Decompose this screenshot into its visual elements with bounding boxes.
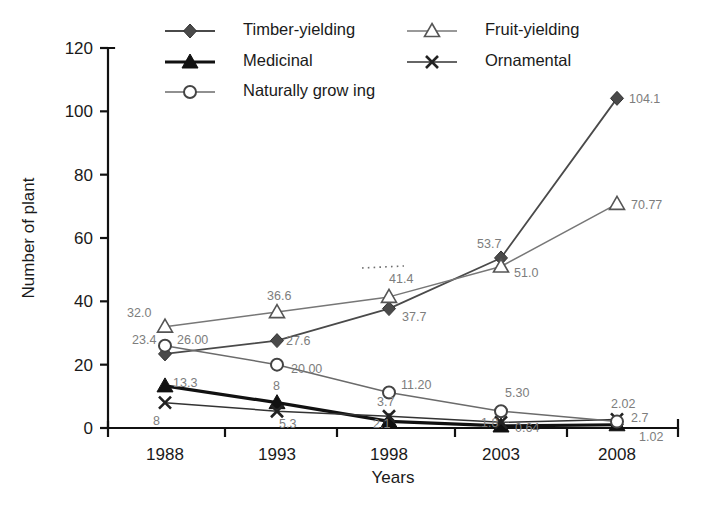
data-label: 32.0: [127, 306, 151, 320]
data-point-marker: [610, 196, 625, 209]
data-point-marker: [271, 359, 283, 371]
y-tick-label: 40: [74, 292, 93, 311]
data-label: 20.00: [291, 362, 322, 376]
data-label: 26.00: [177, 333, 208, 347]
data-label: 2.1: [373, 417, 390, 431]
y-tick-label: 0: [84, 419, 93, 438]
legend-label: Naturally grow ing: [243, 81, 375, 99]
data-label: 8: [153, 414, 160, 428]
legend-label: Medicinal: [243, 51, 313, 69]
data-label: 13.3: [173, 376, 197, 390]
y-tick-label: 100: [65, 102, 93, 121]
data-label: 41.4: [389, 272, 413, 286]
data-point-marker: [157, 378, 173, 392]
legend-item-fruit-yielding[interactable]: Fruit-yielding: [407, 20, 579, 38]
data-label: 53.7: [477, 237, 501, 251]
x-tick-label: 1993: [258, 445, 296, 464]
data-label: 104.1: [629, 92, 660, 106]
chart-canvas: 02040608010012019881993199820032008Years…: [0, 0, 705, 517]
y-axis: [108, 48, 114, 428]
y-tick-label: 20: [74, 356, 93, 375]
y-tick-label: 80: [74, 166, 93, 185]
data-point-marker: [184, 24, 197, 38]
series-group: [157, 91, 625, 432]
data-label: 51.0: [514, 266, 538, 280]
legend-item-ornamental[interactable]: Ornamental: [407, 51, 571, 69]
data-point-marker: [611, 416, 623, 428]
x-tick-label: 1988: [146, 445, 184, 464]
x-tick-label: 2003: [482, 445, 520, 464]
data-label: 8: [273, 379, 280, 393]
x-axis-title: Years: [372, 468, 415, 487]
data-label: 5.3: [279, 417, 296, 431]
x-tick-label: 2008: [598, 445, 636, 464]
legend-label: Fruit-yielding: [485, 20, 579, 38]
data-label: 2.7: [631, 411, 648, 425]
dotted-annotation: [362, 266, 404, 268]
data-label: 70.77: [631, 198, 662, 212]
data-label: 37.7: [402, 310, 426, 324]
legend-label: Ornamental: [485, 51, 571, 69]
data-point-marker: [271, 334, 284, 348]
data-label: 36.6: [267, 289, 291, 303]
data-label: 5.30: [505, 386, 529, 400]
data-point-marker: [425, 24, 440, 37]
legend: Timber-yieldingFruit-yieldingMedicinalOr…: [165, 20, 579, 99]
data-label: 11.20: [401, 378, 431, 392]
series-line: [165, 98, 617, 354]
legend-label: Timber-yielding: [243, 20, 355, 38]
data-label: 2.02: [611, 397, 635, 411]
data-label: 1.8: [481, 416, 498, 430]
data-point-marker: [159, 340, 171, 352]
data-label: 27.6: [286, 334, 310, 348]
x-tick-label: 1998: [370, 445, 408, 464]
data-label: 0.64: [515, 421, 539, 435]
legend-item-timber-yielding[interactable]: Timber-yielding: [165, 20, 355, 38]
data-label: 3.7: [377, 395, 394, 409]
data-label: 23.4: [132, 333, 156, 347]
legend-item-naturally-grow-ing[interactable]: Naturally grow ing: [165, 81, 375, 99]
y-tick-label: 60: [74, 229, 93, 248]
data-point-marker: [383, 302, 396, 316]
line-chart: 02040608010012019881993199820032008Years…: [0, 0, 705, 517]
y-tick-label: 120: [65, 39, 93, 58]
series-timber-yielding: [159, 91, 624, 361]
y-axis-title: Number of plant: [19, 177, 38, 298]
data-point-marker: [184, 86, 196, 98]
legend-item-medicinal[interactable]: Medicinal: [165, 51, 313, 69]
series-line: [165, 346, 617, 422]
data-label: 1.02: [639, 430, 663, 444]
